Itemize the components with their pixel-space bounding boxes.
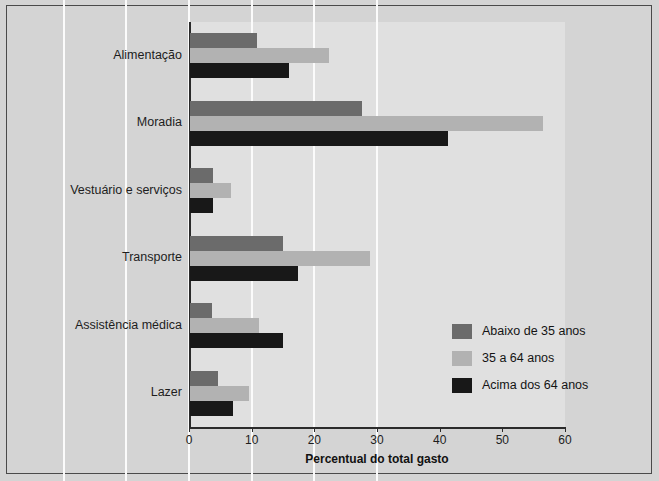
x-tick-label-30: 30 [370,433,383,447]
bar [190,236,283,251]
legend-swatch-icon [452,324,472,339]
legend-item: Acima dos 64 anos [452,376,588,394]
category-label-row: Alimentação [0,48,182,62]
legend-swatch-icon [452,351,472,366]
gridline-50 [313,0,315,481]
legend-swatch-icon [452,378,472,393]
bar [190,371,218,386]
bar [190,266,298,281]
bar [190,48,329,63]
gridline-10 [63,0,65,481]
category-label: Assistência médica [75,318,182,332]
gridline-60 [376,0,378,481]
x-tick-label-0: 0 [186,433,193,447]
bar [190,116,543,131]
category-label-row: Transporte [0,250,182,264]
category-label: Lazer [151,385,182,399]
bar [190,168,213,183]
x-tick-label-40: 40 [433,433,446,447]
bar [190,63,289,78]
category-label-row: Lazer [0,385,182,399]
x-tick-40 [440,427,441,432]
legend-label: Abaixo de 35 anos [482,324,586,338]
category-label-row: Vestuário e serviços [0,183,182,197]
bar [190,198,213,213]
legend-item: 35 a 64 anos [452,349,554,367]
x-tick-30 [377,427,378,432]
x-tick-60 [565,427,566,432]
legend-label: 35 a 64 anos [482,351,554,365]
bar [190,333,283,348]
bar [190,131,448,146]
x-tick-label-10: 10 [245,433,258,447]
category-label-row: Assistência médica [0,318,182,332]
x-tick-10 [252,427,253,432]
x-tick-label-60: 60 [558,433,571,447]
x-axis-label: Percentual do total gasto [189,452,565,466]
x-tick-label-50: 50 [496,433,509,447]
bar [190,251,370,266]
category-label: Transporte [122,250,182,264]
bar [190,183,231,198]
legend: Abaixo de 35 anos35 a 64 anosAcima dos 6… [452,322,607,400]
x-tick-50 [502,427,503,432]
x-tick-20 [314,427,315,432]
category-label: Moradia [137,115,182,129]
legend-item: Abaixo de 35 anos [452,322,586,340]
category-label-row: Moradia [0,115,182,129]
category-label: Vestuário e serviços [70,183,182,197]
y-axis-line [189,22,191,428]
bar [190,303,212,318]
x-tick-0 [189,427,190,432]
bar [190,318,259,333]
category-label: Alimentação [113,48,182,62]
chart-figure: 0102030405060 Percentual do total gasto … [0,0,659,481]
legend-label: Acima dos 64 anos [482,378,588,392]
bar [190,33,257,48]
bar [190,401,233,416]
x-tick-label-20: 20 [308,433,321,447]
bar [190,386,249,401]
bar [190,101,362,116]
gridline-20 [125,0,127,481]
